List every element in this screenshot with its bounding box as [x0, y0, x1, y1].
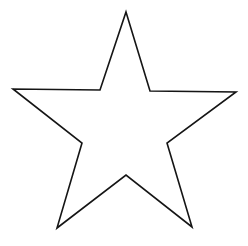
drawing-canvas: [0, 0, 248, 246]
star-figure-svg: [0, 0, 248, 246]
canvas-background: [0, 0, 248, 246]
